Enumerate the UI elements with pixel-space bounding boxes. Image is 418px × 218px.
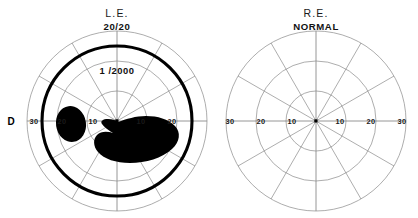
- visual-field-chart-canvas: L.E. 20/20 1 /2000: [0, 0, 418, 218]
- right-tick-right-30: 30: [397, 117, 406, 126]
- right-tick-right-10: 10: [335, 117, 344, 126]
- right-eye-title: R.E.: [303, 7, 328, 19]
- left-eye-acuity: 20/20: [103, 21, 130, 32]
- left-tick-right-10: 10: [136, 117, 145, 126]
- right-eye-chart: R.E. NORMAL 30 20 10 1: [225, 7, 406, 211]
- perimetry-charts-svg: L.E. 20/20 1 /2000: [0, 0, 418, 218]
- right-tick-left-30: 30: [225, 117, 234, 126]
- left-fixation-point: [115, 119, 118, 122]
- left-eye-title: L.E.: [105, 7, 128, 19]
- left-tick-left-30: 30: [29, 117, 38, 126]
- right-tick-left-10: 10: [287, 117, 296, 126]
- left-eye-chart: L.E. 20/20 1 /2000: [7, 7, 207, 211]
- right-tick-right-20: 20: [366, 117, 375, 126]
- left-tick-left-20: 20: [57, 117, 66, 126]
- right-fixation-point: [314, 119, 317, 122]
- right-eye-status: NORMAL: [293, 21, 339, 32]
- left-isopter-label: 1 /2000: [100, 65, 135, 76]
- left-tick-left-10: 10: [88, 117, 97, 126]
- left-tick-right-20: 20: [167, 117, 176, 126]
- left-side-marker-d: D: [7, 116, 14, 127]
- right-tick-left-20: 20: [256, 117, 265, 126]
